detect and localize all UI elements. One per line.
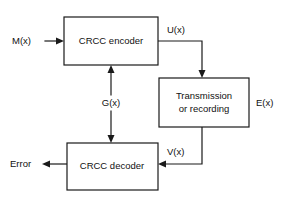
diagram-canvas: CRCC encoder Transmission or recording C…: [0, 0, 290, 203]
signal-label-received: V(x): [167, 146, 184, 157]
arrow-input-to-encoder: [45, 38, 64, 45]
signal-label-error-pattern: E(x): [256, 97, 273, 108]
signal-label-input: M(x): [12, 35, 31, 46]
arrow-decoder-to-error: [42, 161, 67, 168]
block-diagram: CRCC encoder Transmission or recording C…: [0, 0, 290, 203]
block-channel-label-line1: Transmission: [176, 90, 232, 101]
signal-label-encoded: U(x): [167, 24, 185, 35]
arrow-encoder-to-channel: [158, 41, 206, 78]
block-channel-label-line2: or recording: [179, 103, 230, 114]
block-encoder-label: CRCC encoder: [79, 35, 143, 46]
block-decoder-label: CRCC decoder: [80, 160, 144, 171]
signal-label-generator: G(x): [102, 97, 120, 108]
signal-label-output: Error: [10, 158, 31, 169]
